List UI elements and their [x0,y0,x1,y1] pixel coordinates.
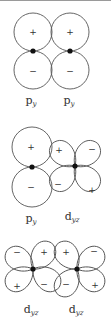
sign-plus: + [62,247,70,257]
py-orbital: + − [12,127,52,207]
sign-plus: + [55,145,63,155]
nucleus-dot [72,163,77,168]
lobe-upper-left [44,135,83,174]
orbital-diagram: + − + − py py + − + − − [0,0,111,329]
dyz-orbital-right [49,236,109,301]
sign-plus: + [66,27,74,37]
orbital-label-right: py [63,94,75,108]
panel-dyz-dyz: − + + − + − − + dyz dyz [0,236,109,317]
panel-py-py: + − + − py py [14,13,89,108]
nucleus-dot [30,266,35,271]
lobe-upper-right [67,135,106,174]
orbital-label-left: py [25,94,37,108]
lobe-lower-left [0,260,39,297]
nucleus-dot [67,48,72,53]
sign-plus: + [40,247,48,257]
orbital-label-left: dyz [24,303,39,317]
lobe-lower-right [67,158,106,197]
sign-plus: + [91,280,99,290]
lobe-lower-left [44,158,83,197]
nucleus-dot [30,48,35,53]
sign-minus: − [54,179,62,189]
lobe-lower-right [71,260,110,297]
sign-minus: − [66,66,74,76]
py-orbital-right: + − [51,13,89,89]
sign-minus: − [40,279,48,289]
sign-minus: − [13,247,21,257]
sign-minus: − [62,279,70,289]
sign-plus: + [27,142,35,152]
sign-minus: − [29,66,37,76]
nucleus-dot [74,266,79,271]
panel-py-dyz: + − + − − + py dyz [12,127,106,226]
orbital-label-left: py [25,212,37,226]
sign-minus: − [90,246,98,256]
sign-plus: + [88,185,96,195]
nucleus-dot [29,164,34,169]
orbital-label-right: dyz [65,210,80,224]
orbital-label-right: dyz [69,303,84,317]
sign-minus: − [27,182,35,192]
sign-plus: + [13,281,21,291]
sign-minus: − [88,144,96,154]
py-orbital-left: + − [14,13,52,89]
sign-plus: + [29,27,37,37]
